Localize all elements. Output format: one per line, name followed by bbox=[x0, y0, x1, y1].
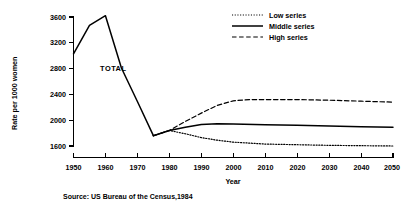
legend-label-low: Low series bbox=[269, 11, 306, 20]
legend-label-high: High series bbox=[269, 33, 308, 42]
total-series-annotation: TOTAL bbox=[100, 64, 126, 73]
x-tick-label-1990: 1990 bbox=[194, 163, 210, 172]
x-tick-label-1970: 1970 bbox=[130, 163, 146, 172]
x-tick-label-2050: 2050 bbox=[384, 163, 400, 172]
y-tick-label-1600: 1600 bbox=[50, 142, 66, 151]
y-tick-label-2400: 2400 bbox=[50, 90, 66, 99]
y-axis-title: Rate per 1000 women bbox=[10, 56, 19, 130]
source-note: Source: US Bureau of the Census,1984 bbox=[63, 193, 193, 201]
fertility-rate-line-chart: 3600 3200 2800 2400 2000 1600 Rate per 1… bbox=[0, 0, 413, 207]
x-tick-label-1980: 1980 bbox=[162, 163, 178, 172]
x-axis-ticks bbox=[74, 153, 394, 158]
y-tick-label-2800: 2800 bbox=[50, 64, 66, 73]
series-line-total bbox=[74, 16, 154, 136]
x-tick-label-2000: 2000 bbox=[226, 163, 242, 172]
x-tick-label-2010: 2010 bbox=[258, 163, 274, 172]
chart-container: 3600 3200 2800 2400 2000 1600 Rate per 1… bbox=[0, 0, 413, 207]
x-tick-label-2020: 2020 bbox=[290, 163, 306, 172]
y-tick-label-2000: 2000 bbox=[50, 116, 66, 125]
x-tick-label-2030: 2030 bbox=[322, 163, 338, 172]
series-line-middle bbox=[153, 124, 393, 136]
series-line-low bbox=[153, 131, 393, 146]
series-line-high bbox=[153, 100, 393, 136]
chart-legend: Low series Middle series High series bbox=[232, 11, 315, 42]
x-tick-label-1960: 1960 bbox=[98, 163, 114, 172]
x-tick-label-2040: 2040 bbox=[354, 163, 370, 172]
y-axis-ticks bbox=[69, 17, 74, 146]
series-paths bbox=[74, 16, 394, 146]
y-tick-label-3600: 3600 bbox=[50, 13, 66, 22]
x-tick-label-1950: 1950 bbox=[66, 163, 82, 172]
x-axis-title: Year bbox=[225, 177, 240, 186]
legend-label-middle: Middle series bbox=[269, 22, 315, 31]
y-tick-label-3200: 3200 bbox=[50, 38, 66, 47]
